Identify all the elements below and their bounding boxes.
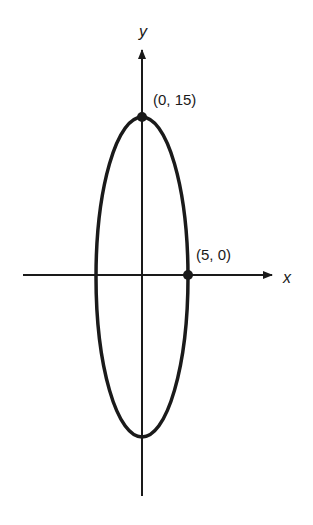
point-label-top: (0, 15) xyxy=(153,91,196,108)
point-label-right: (5, 0) xyxy=(196,246,231,263)
y-axis-label: y xyxy=(138,23,148,40)
ellipse-diagram: y x (0, 15) (5, 0) xyxy=(0,0,313,525)
point-vertex-top xyxy=(137,112,147,122)
point-covertex-right xyxy=(183,270,193,280)
x-axis-label: x xyxy=(282,269,292,286)
